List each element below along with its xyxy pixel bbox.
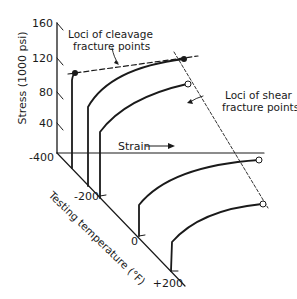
shear-annotation-1: Loci of shear [225, 89, 293, 101]
curve-0 [139, 160, 259, 236]
shear-point-2 [256, 157, 262, 163]
shear-loci-line [174, 52, 268, 208]
curve-minus-400 [72, 73, 75, 168]
tick-minus-400: -400 [29, 151, 54, 164]
shear-annotation-2: fracture points [222, 101, 297, 113]
stress-strain-temperature-diagram: 160 120 80 40 Stress (1000 psi) Loci of … [0, 0, 297, 299]
cleavage-annotation-1: Loci of cleavage [68, 28, 153, 40]
shear-point-1 [185, 81, 191, 87]
tick-minus-200: -200 [74, 190, 99, 203]
tick-0: 0 [131, 235, 138, 248]
shear-leader [190, 96, 203, 102]
tick-40: 40 [39, 117, 53, 130]
cleavage-point-2 [181, 56, 187, 62]
tick-80: 80 [39, 86, 53, 99]
curve-plus-200 [171, 204, 262, 271]
diagram-svg: 160 120 80 40 Stress (1000 psi) Loci of … [0, 0, 297, 299]
tick-120: 120 [32, 52, 53, 65]
stress-axis-label: Stress (1000 psi) [16, 31, 29, 124]
cleavage-annotation-2: fracture points [73, 40, 150, 52]
tick-160: 160 [32, 17, 53, 30]
shear-point-3 [260, 201, 266, 207]
cleavage-point-1 [72, 70, 78, 76]
curve-minus-300 [88, 59, 184, 186]
strain-label: Strain [118, 140, 151, 153]
tick-plus-200: +200 [153, 277, 183, 290]
